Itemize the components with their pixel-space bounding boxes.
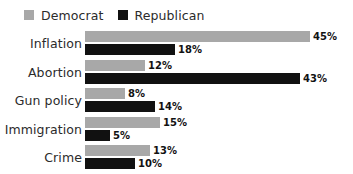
bar-democrat[interactable] (85, 145, 150, 156)
bar-group: Immigration15%5% (0, 116, 353, 143)
bar-row-democrat: 13% (85, 145, 353, 156)
legend-item-democrat[interactable]: Democrat (24, 9, 104, 22)
bar-value-label: 13% (153, 145, 177, 156)
bar-group-bars: 45%18% (85, 30, 353, 57)
legend-label-democrat: Democrat (41, 9, 104, 22)
bar-value-label: 12% (148, 60, 172, 71)
bar-value-label: 18% (178, 44, 202, 55)
bar-row-democrat: 15% (85, 117, 353, 128)
bar-group: Gun policy8%14% (0, 87, 353, 114)
bar-row-republican: 14% (85, 101, 353, 112)
bar-group-bars: 15%5% (85, 116, 353, 143)
bar-row-democrat: 8% (85, 88, 353, 99)
bar-value-label: 45% (313, 31, 337, 42)
bar-value-label: 15% (163, 117, 187, 128)
category-label: Inflation (0, 30, 82, 57)
bar-group: Abortion12%43% (0, 59, 353, 86)
bar-group: Crime13%10% (0, 144, 353, 171)
legend-item-republican[interactable]: Republican (118, 9, 205, 22)
bar-democrat[interactable] (85, 117, 160, 128)
category-label: Abortion (0, 59, 82, 86)
legend-label-republican: Republican (135, 9, 205, 22)
bar-row-republican: 10% (85, 158, 353, 169)
bar-republican[interactable] (85, 73, 300, 84)
category-label: Gun policy (0, 87, 82, 114)
bar-row-republican: 5% (85, 130, 353, 141)
bar-row-republican: 43% (85, 73, 353, 84)
bar-value-label: 14% (158, 101, 182, 112)
bar-democrat[interactable] (85, 31, 310, 42)
bar-group-bars: 8%14% (85, 87, 353, 114)
bar-group-bars: 13%10% (85, 144, 353, 171)
bar-value-label: 5% (113, 130, 130, 141)
bar-chart: Democrat Republican Inflation45%18%Abort… (0, 0, 353, 174)
bar-value-label: 10% (138, 158, 162, 169)
chart-legend: Democrat Republican (24, 7, 205, 23)
bar-republican[interactable] (85, 101, 155, 112)
bar-row-democrat: 12% (85, 60, 353, 71)
bar-democrat[interactable] (85, 88, 125, 99)
bar-republican[interactable] (85, 44, 175, 55)
bar-row-republican: 18% (85, 44, 353, 55)
bar-row-democrat: 45% (85, 31, 353, 42)
bar-value-label: 43% (303, 73, 327, 84)
category-label: Crime (0, 144, 82, 171)
bar-group-bars: 12%43% (85, 59, 353, 86)
bar-value-label: 8% (128, 88, 145, 99)
bar-group: Inflation45%18% (0, 30, 353, 57)
bar-republican[interactable] (85, 130, 110, 141)
legend-swatch-icon-democrat (24, 10, 34, 20)
bar-democrat[interactable] (85, 60, 145, 71)
bar-republican[interactable] (85, 158, 135, 169)
legend-swatch-icon-republican (118, 10, 128, 20)
plot-area: Inflation45%18%Abortion12%43%Gun policy8… (0, 30, 353, 174)
category-label: Immigration (0, 116, 82, 143)
